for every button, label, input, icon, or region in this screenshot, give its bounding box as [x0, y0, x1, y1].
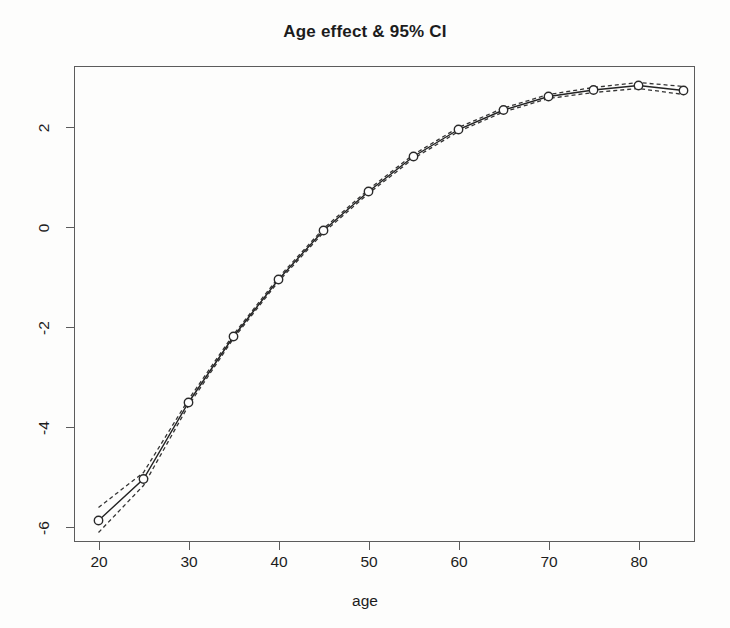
data-point-marker — [274, 275, 282, 283]
data-point-marker — [229, 332, 237, 340]
data-point-marker — [454, 125, 462, 133]
data-point-marker — [499, 106, 507, 114]
ci-upper-line — [99, 83, 684, 508]
chart-plot-layer — [0, 0, 730, 628]
data-point-marker — [184, 398, 192, 406]
age-effect-line — [99, 86, 684, 521]
ci-upper-path-group — [99, 83, 684, 508]
fit-path-group — [99, 86, 684, 521]
data-point-marker — [634, 81, 642, 89]
data-point-marker — [589, 86, 597, 94]
data-point-marker — [544, 92, 552, 100]
data-point-marker — [409, 152, 417, 160]
plot-figure: Age effect & 95% CI 2 0 -2 -4 -6 20 30 4… — [0, 0, 730, 628]
data-point-marker — [364, 187, 372, 195]
ci-lower-path-group — [99, 89, 684, 533]
data-point-marker — [679, 86, 687, 94]
data-point-marker — [94, 516, 102, 524]
data-point-marker — [319, 226, 327, 234]
data-point-markers — [94, 81, 687, 524]
ci-lower-line — [99, 89, 684, 533]
data-point-marker — [139, 475, 147, 483]
